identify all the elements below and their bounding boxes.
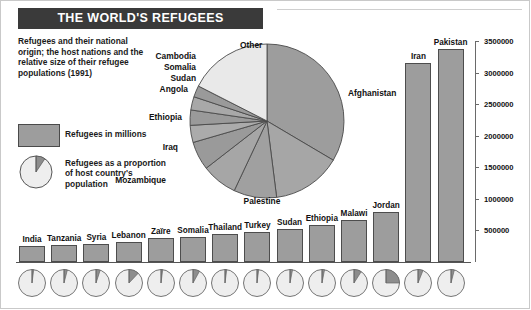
infographic-root: THE WORLD'S REFUGEES Refugees and their … [0,0,531,310]
proportion-pie [242,268,272,298]
proportion-pie [339,268,369,298]
pie-leader-lines [0,0,531,310]
proportion-pie [436,268,466,298]
proportion-pie [275,268,305,298]
proportion-pie [178,268,208,298]
proportion-pie [403,268,433,298]
proportion-pie [49,268,79,298]
proportion-pie [81,268,111,298]
proportion-pie [210,268,240,298]
proportion-pie [146,268,176,298]
proportion-pie [17,268,47,298]
proportion-pie [307,268,337,298]
proportion-pie [114,268,144,298]
proportion-pie [371,268,401,298]
